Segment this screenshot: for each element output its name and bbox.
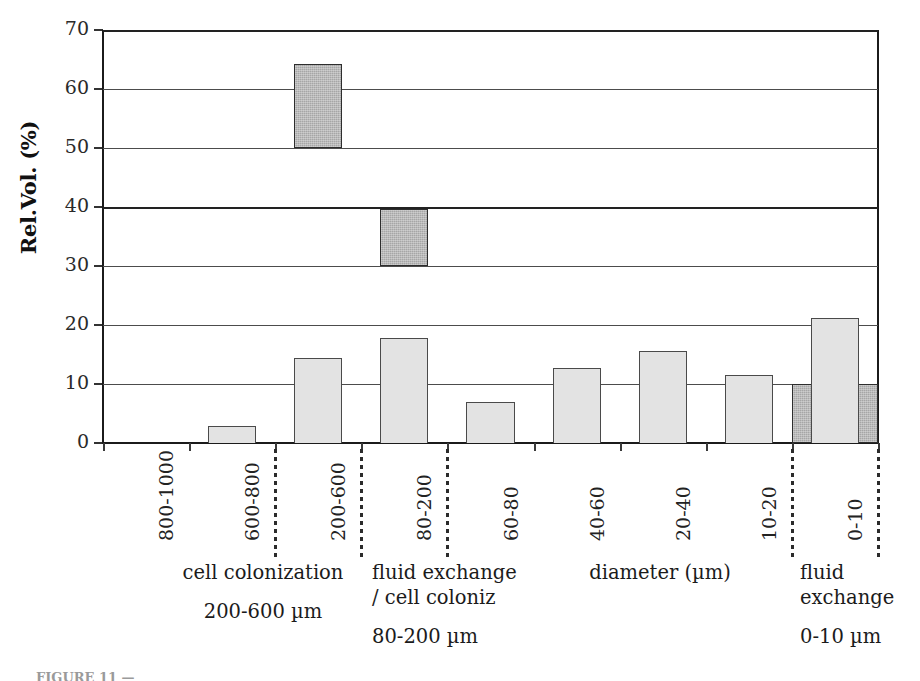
gridline-40 xyxy=(103,207,878,209)
gridline-50 xyxy=(103,148,878,149)
x-category-label-60-80: 60-80 xyxy=(500,486,522,541)
x-category-label-200-600: 200-600 xyxy=(327,462,349,541)
x-category-label-40-60: 40-60 xyxy=(586,486,608,541)
x-tick-mark xyxy=(706,443,708,451)
x-category-label-0-10: 0-10 xyxy=(844,498,866,541)
group-note-line: exchange xyxy=(800,585,910,610)
x-category-label-10-20: 10-20 xyxy=(758,486,780,541)
group-note-2: diameter (µm) xyxy=(565,560,755,585)
group-note-line: cell colonization xyxy=(163,560,363,585)
bar-80-200 xyxy=(380,338,428,443)
figure-caption: FIGURE 11 — xyxy=(36,670,135,681)
gridline-20 xyxy=(103,325,878,326)
plot-area xyxy=(103,30,878,443)
group-divider xyxy=(877,445,880,557)
group-note-line: diameter (µm) xyxy=(565,560,755,585)
y-tick-label: 0 xyxy=(37,430,89,452)
bar-0-10 xyxy=(811,318,859,443)
y-tick-label: 50 xyxy=(37,135,89,157)
group-divider xyxy=(360,445,363,557)
gridline-60 xyxy=(103,89,878,90)
figure-container: Rel.Vol. (%) 010203040506070 800-1000600… xyxy=(0,0,920,681)
group-note-line: / cell coloniz xyxy=(372,585,532,610)
group-divider xyxy=(446,445,449,557)
group-divider xyxy=(274,445,277,557)
x-category-label-800-1000: 800-1000 xyxy=(155,450,177,541)
x-category-label-80-200: 80-200 xyxy=(413,474,435,541)
y-tick-label: 20 xyxy=(37,312,89,334)
group-note-line: fluid xyxy=(800,560,910,585)
fluid-exchange-cell-coloniz-box xyxy=(380,209,428,266)
y-tick-label: 40 xyxy=(37,194,89,216)
group-note-line: 80-200 µm xyxy=(372,624,532,649)
bar-40-60 xyxy=(553,368,601,443)
group-note-3: fluidexchange0-10 µm xyxy=(800,560,910,649)
x-category-label-20-40: 20-40 xyxy=(672,486,694,541)
gridline-30 xyxy=(103,266,878,267)
gridline-70 xyxy=(103,30,878,32)
group-note-1: fluid exchange/ cell coloniz80-200 µm xyxy=(372,560,532,649)
cell-colonization-box xyxy=(294,64,342,148)
group-note-line: 0-10 µm xyxy=(800,624,910,649)
group-divider xyxy=(791,445,794,557)
x-category-label-600-800: 600-800 xyxy=(241,462,263,541)
y-tick-label: 30 xyxy=(37,253,89,275)
y-tick-label: 10 xyxy=(37,371,89,393)
y-tick-label: 70 xyxy=(37,17,89,39)
group-note-line: 200-600 µm xyxy=(163,599,363,624)
x-tick-mark xyxy=(103,443,105,451)
group-note-0: cell colonization200-600 µm xyxy=(163,560,363,624)
bar-60-80 xyxy=(466,402,514,443)
plot-right-border xyxy=(877,30,879,443)
x-tick-mark xyxy=(620,443,622,451)
bar-20-40 xyxy=(639,351,687,443)
y-tick-label: 60 xyxy=(37,76,89,98)
bar-10-20 xyxy=(725,375,773,443)
y-axis-line xyxy=(102,30,104,443)
bar-200-600 xyxy=(294,358,342,443)
x-tick-mark xyxy=(534,443,536,451)
bar-600-800 xyxy=(208,426,256,443)
x-tick-mark xyxy=(189,443,191,451)
group-note-line: fluid exchange xyxy=(372,560,532,585)
